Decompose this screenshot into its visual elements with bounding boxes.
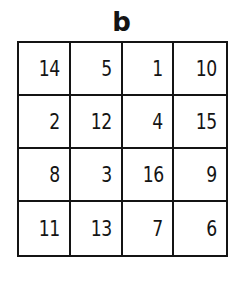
grid-cell: 11 xyxy=(19,202,71,255)
cell-value: 11 xyxy=(39,217,60,241)
cell-value: 10 xyxy=(196,57,217,81)
cell-value: 6 xyxy=(206,217,217,241)
grid-cell: 8 xyxy=(19,149,71,202)
grid-cell: 13 xyxy=(71,202,123,255)
grid-cell: 6 xyxy=(174,202,226,255)
grid-cell: 7 xyxy=(123,202,175,255)
grid-cell: 16 xyxy=(123,149,175,202)
cell-value: 12 xyxy=(90,110,111,134)
grid-cell: 9 xyxy=(174,149,226,202)
cell-value: 3 xyxy=(101,163,112,187)
cell-value: 5 xyxy=(101,57,112,81)
cell-value: 2 xyxy=(49,110,60,134)
grid-cell: 3 xyxy=(71,149,123,202)
grid-cell: 1 xyxy=(123,43,175,96)
figure-label: b xyxy=(0,8,243,36)
grid-cell: 2 xyxy=(19,96,71,149)
cell-value: 8 xyxy=(49,163,60,187)
grid-cell: 12 xyxy=(71,96,123,149)
cell-value: 4 xyxy=(153,110,164,134)
grid-cell: 10 xyxy=(174,43,226,96)
grid-cell: 15 xyxy=(174,96,226,149)
grid-cell: 4 xyxy=(123,96,175,149)
grid-cell: 5 xyxy=(71,43,123,96)
cell-value: 7 xyxy=(153,217,164,241)
cell-value: 15 xyxy=(196,110,217,134)
cell-value: 14 xyxy=(39,57,60,81)
cell-value: 16 xyxy=(142,163,163,187)
number-grid: 14 5 1 10 2 12 4 15 8 3 16 9 11 13 7 6 xyxy=(17,41,228,257)
cell-value: 9 xyxy=(206,163,217,187)
cell-value: 13 xyxy=(90,217,111,241)
cell-value: 1 xyxy=(153,57,164,81)
grid-cell: 14 xyxy=(19,43,71,96)
